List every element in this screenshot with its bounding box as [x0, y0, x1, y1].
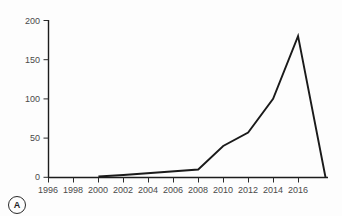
x-axis-group: 1996 1998 2000 2002 2004 2006 2008 2010 …: [38, 178, 328, 196]
x-tick-label: 2012: [238, 185, 258, 195]
x-tick-label: 2010: [213, 185, 233, 195]
y-tick-label: 50: [30, 133, 40, 143]
line-chart-plot: 200 150 100 50 0: [0, 0, 342, 216]
y-tick-labels: 200 150 100 50 0: [25, 16, 40, 182]
x-tick-label: 2014: [263, 185, 283, 195]
x-tick-label: 2002: [113, 185, 133, 195]
x-tick-label: 2000: [88, 185, 108, 195]
x-tick-label: 2008: [188, 185, 208, 195]
chart-figure: 200 150 100 50 0: [0, 0, 342, 216]
x-tick-labels: 1996 1998 2000 2002 2004 2006 2008 2010 …: [38, 185, 308, 195]
y-tick-label: 200: [25, 16, 40, 26]
y-tick-label: 150: [25, 55, 40, 65]
x-tick-marks: [49, 178, 299, 183]
x-tick-label: 1996: [38, 185, 58, 195]
x-tick-label: 1998: [63, 185, 83, 195]
x-tick-label: 2004: [138, 185, 158, 195]
panel-label-a: A: [8, 196, 26, 214]
data-series-line: [98, 36, 325, 177]
y-tick-label: 0: [35, 172, 40, 182]
x-tick-label: 2006: [163, 185, 183, 195]
y-tick-marks: [44, 21, 49, 178]
y-tick-label: 100: [25, 94, 40, 104]
x-tick-label: 2016: [288, 185, 308, 195]
y-axis-group: 200 150 100 50 0: [25, 16, 49, 182]
